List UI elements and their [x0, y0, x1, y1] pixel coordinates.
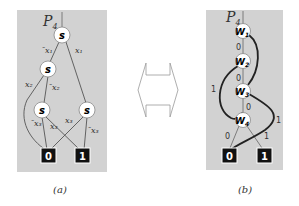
svg-text:0: 0: [236, 74, 241, 83]
svg-text:0: 0: [45, 151, 52, 162]
panel-a-node-2: s: [40, 61, 56, 77]
panel-b-node-w4: W4: [235, 113, 251, 128]
double-arrow-icon: [138, 63, 178, 117]
panel-b-node-w3: W3: [235, 84, 251, 99]
svg-text:1: 1: [211, 85, 216, 94]
svg-text:0: 0: [236, 43, 241, 52]
panel-b: P4 W1 W2 W3 W4: [206, 9, 283, 195]
panel-b-caption: (b): [238, 184, 252, 195]
svg-text:s: s: [45, 64, 51, 75]
svg-text:¯x₃: ¯x₃: [30, 119, 42, 128]
svg-text:¯x₁: ¯x₁: [41, 46, 53, 55]
panel-b-terminal-0: 0: [222, 148, 237, 163]
svg-text:x₂: x₂: [25, 80, 33, 89]
panel-b-node-w2: W2: [235, 54, 251, 69]
panel-a-node-1: s: [54, 27, 70, 43]
svg-text:s: s: [39, 105, 45, 116]
svg-text:s: s: [59, 30, 65, 41]
panel-a: P4 s s s s: [17, 10, 107, 195]
svg-text:¯x₃: ¯x₃: [87, 126, 99, 135]
panel-b-node-w1: W1: [235, 24, 251, 39]
panel-a-terminal-1: 1: [75, 148, 90, 163]
svg-text:x₃: x₃: [50, 122, 58, 131]
svg-text:0: 0: [225, 132, 230, 141]
panel-a-terminal-0: 0: [41, 148, 56, 163]
svg-text:1: 1: [276, 116, 281, 125]
svg-text:1: 1: [264, 132, 269, 141]
bdd-comparison-diagram: P4 s s s s: [0, 0, 299, 206]
svg-text:1: 1: [261, 151, 268, 162]
svg-text:x₁: x₁: [75, 46, 83, 55]
panel-a-node-4: s: [79, 102, 95, 118]
svg-text:x₃: x₃: [65, 116, 73, 125]
svg-text:s: s: [84, 105, 90, 116]
svg-text:1: 1: [79, 151, 86, 162]
svg-text:¯x₂: ¯x₂: [48, 83, 60, 92]
panel-a-node-3: s: [34, 102, 50, 118]
panel-b-terminal-1: 1: [257, 148, 272, 163]
svg-text:0: 0: [226, 151, 233, 162]
panel-a-caption: (a): [53, 184, 67, 195]
svg-text:0: 0: [246, 103, 251, 112]
